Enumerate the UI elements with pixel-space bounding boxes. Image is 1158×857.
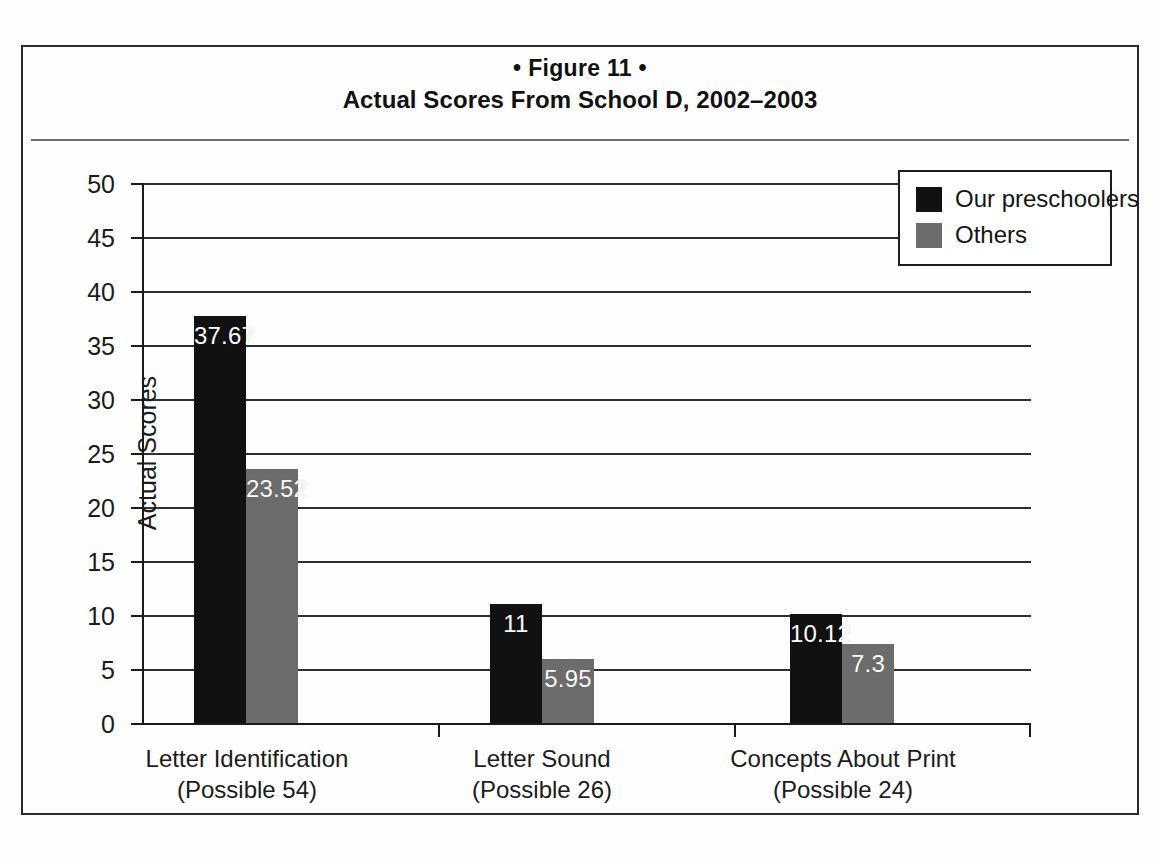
legend-item-our-preschoolers[interactable]: Our preschoolers (916, 181, 1110, 217)
y-tick-35: 35 (131, 345, 142, 347)
x-label-concepts-about-print: Concepts About Print (Possible 24) (712, 743, 974, 805)
y-tick-label-35: 35 (87, 334, 115, 359)
bar-others-letter-sound[interactable]: 5.95 (542, 659, 594, 723)
figure-root: • Figure 11 • Actual Scores From School … (0, 0, 1158, 857)
y-tick-label-45: 45 (87, 226, 115, 251)
bar-value-label: 7.3 (842, 651, 894, 677)
y-tick-label-15: 15 (87, 550, 115, 575)
bar-our-preschoolers-letter-identification[interactable]: 37.67 (194, 316, 246, 723)
legend-swatch-our-preschoolers-icon (916, 187, 942, 212)
x-label-name: Letter Identification (146, 745, 349, 772)
y-tick-40: 40 (131, 291, 142, 293)
bar-others-concepts-about-print[interactable]: 7.3 (842, 644, 894, 723)
y-tick-5: 5 (131, 669, 142, 671)
x-tick-sep-2 (734, 723, 736, 737)
x-label-name: Letter Sound (473, 745, 610, 772)
axis-baseline (142, 723, 1031, 725)
x-label-possible: (Possible 54) (122, 774, 372, 805)
figure-title: Actual Scores From School D, 2002–2003 (23, 83, 1137, 116)
gridline-40 (142, 291, 1031, 293)
x-axis-labels: Letter Identification (Possible 54) Lett… (142, 743, 1031, 833)
bar-value-label: 5.95 (542, 666, 594, 692)
x-label-letter-identification: Letter Identification (Possible 54) (122, 743, 372, 805)
gridline-25 (142, 453, 1031, 455)
gridline-30 (142, 399, 1031, 401)
bar-our-preschoolers-letter-sound[interactable]: 11 (490, 604, 542, 723)
y-tick-label-25: 25 (87, 442, 115, 467)
chart-legend[interactable]: Our preschoolers Others (898, 170, 1112, 266)
figure-number: • Figure 11 • (23, 53, 1137, 83)
bar-value-label: 37.67 (194, 323, 246, 349)
y-tick-0: 0 (131, 723, 142, 725)
figure-frame: • Figure 11 • Actual Scores From School … (21, 45, 1139, 815)
y-tick-15: 15 (131, 561, 142, 563)
bar-value-label: 23.52 (246, 476, 298, 502)
y-tick-label-10: 10 (87, 604, 115, 629)
x-label-name: Concepts About Print (730, 745, 955, 772)
title-block: • Figure 11 • Actual Scores From School … (23, 53, 1137, 116)
x-label-possible: (Possible 24) (712, 774, 974, 805)
x-tick-sep-3 (1029, 723, 1031, 737)
x-label-letter-sound: Letter Sound (Possible 26) (422, 743, 662, 805)
legend-item-others[interactable]: Others (916, 217, 1110, 253)
y-tick-label-5: 5 (101, 658, 115, 683)
title-divider (31, 139, 1129, 141)
y-tick-label-50: 50 (87, 172, 115, 197)
y-tick-label-40: 40 (87, 280, 115, 305)
y-tick-45: 45 (131, 237, 142, 239)
legend-swatch-others-icon (916, 223, 942, 248)
x-label-possible: (Possible 26) (422, 774, 662, 805)
bar-our-preschoolers-concepts-about-print[interactable]: 10.12 (790, 614, 842, 723)
legend-label-others: Others (955, 222, 1027, 248)
bar-value-label: 10.12 (790, 621, 842, 647)
legend-label-our-preschoolers: Our preschoolers (955, 186, 1139, 212)
y-tick-label-30: 30 (87, 388, 115, 413)
y-tick-50: 50 (131, 183, 142, 185)
bar-value-label: 11 (490, 611, 542, 637)
x-tick-sep-1 (438, 723, 440, 737)
y-tick-label-20: 20 (87, 496, 115, 521)
gridline-35 (142, 345, 1031, 347)
y-axis-title: Actual Scores (135, 376, 160, 530)
y-tick-label-0: 0 (101, 712, 115, 737)
bar-others-letter-identification[interactable]: 23.52 (246, 469, 298, 723)
y-tick-10: 10 (131, 615, 142, 617)
